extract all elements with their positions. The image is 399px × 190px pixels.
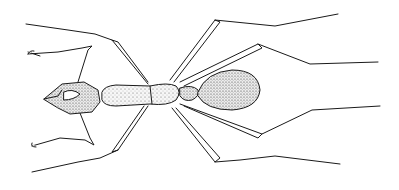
- hind-leg-lower: [180, 104, 380, 134]
- gaster: [198, 70, 260, 110]
- antenna-lower: [32, 108, 95, 147]
- mid-leg-lower: [172, 108, 340, 164]
- mid-leg-upper: [170, 14, 338, 80]
- hind-leg-upper: [180, 44, 378, 82]
- ant-illustration: Ant illustration (dorsal view): [0, 0, 399, 190]
- ant-drawing: [0, 0, 399, 190]
- petiole: [180, 86, 198, 100]
- antenna-upper: [28, 46, 92, 82]
- thorax: [102, 84, 179, 106]
